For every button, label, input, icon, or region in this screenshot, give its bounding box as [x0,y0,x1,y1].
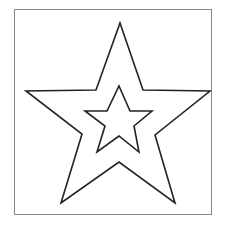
outer-star-icon [26,23,210,203]
stars-diagram [0,0,225,226]
inner-star-icon [85,86,152,152]
